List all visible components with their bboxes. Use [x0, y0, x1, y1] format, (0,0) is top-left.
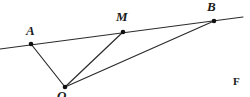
point-marker-a [29, 42, 34, 47]
point-marker-m [121, 30, 126, 35]
vertex-label-o: O [57, 89, 66, 97]
segment-O-M [65, 32, 123, 87]
geometry-figure: AMBOF [0, 0, 250, 97]
vertex-label-a: A [26, 24, 35, 37]
vertex-label-b: B [207, 0, 216, 13]
segments-group [0, 17, 243, 87]
vertex-label-m: M [116, 10, 128, 23]
point-marker-b [212, 19, 217, 24]
annotation-label-f: F [233, 76, 240, 87]
points-group [29, 19, 217, 90]
segment-O-A [31, 44, 65, 87]
